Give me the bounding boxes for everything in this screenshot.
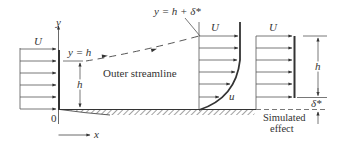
axes: y x 0 [51,16,99,140]
delta-star-label: δ* [311,97,322,109]
h-left-label: h [77,78,83,90]
boundary-layer-profile: U u [199,21,240,110]
simulated-label-line2: effect [270,123,294,134]
y-equals-h-marker: y = h h [63,46,92,107]
y-equals-h-plus-delta-marker: y = h + δ* [153,5,201,36]
wall [59,109,256,115]
right-dimensions: h δ* [297,36,327,124]
outer-streamline-label: Outer streamline [103,67,177,79]
y-equals-h-plus-delta-label: y = h + δ* [153,5,201,17]
inlet-uniform-profile: U [20,35,56,109]
simulated-label-line1: Simulated [263,112,306,123]
streamline-arrowhead [151,47,158,52]
leader-line [185,18,200,36]
y-axis-label: y [55,16,61,28]
h-right-label: h [315,60,321,72]
displacement-thickness-diagram: U y x 0 y = h h Outer streamline y = h +… [0,0,340,150]
sim-freestream-label: U [269,21,278,33]
bl-local-velocity-label: u [229,90,235,102]
inlet-velocity-label: U [34,35,43,47]
outer-streamline: Outer streamline [86,36,199,79]
bl-freestream-label: U [211,21,220,33]
y-equals-h-label: y = h [67,46,92,58]
origin-label: 0 [51,112,57,124]
x-axis-label: x [93,128,99,140]
simulated-uniform-profile: U Simulated effect [256,21,327,134]
streamline-arrowhead [102,54,108,58]
